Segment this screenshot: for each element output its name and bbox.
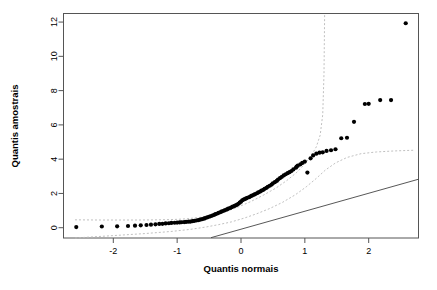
x-axis-tick-labels: -2-1012: [109, 246, 371, 256]
y-axis-title: Quantis amostrais: [9, 85, 20, 168]
confidence-band-line: [75, 150, 413, 238]
y-tick-label: 6: [50, 122, 60, 127]
y-axis-tick-labels: 024681012: [50, 17, 60, 230]
x-tick-label: 0: [238, 246, 243, 256]
y-tick-label: 8: [50, 88, 60, 93]
data-point: [305, 170, 309, 174]
data-point: [303, 159, 307, 163]
data-point: [363, 102, 367, 106]
data-point: [321, 150, 325, 154]
reference-line: [211, 179, 419, 237]
plot-canvas: 024681012 -2-1012 Quantis normais Quanti…: [0, 0, 437, 290]
y-tick-label: 4: [50, 157, 60, 162]
x-tick-label: 2: [366, 246, 371, 256]
data-point: [339, 136, 343, 140]
y-tick-label: 0: [50, 225, 60, 230]
x-tick-label: -2: [109, 246, 117, 256]
data-point: [149, 223, 153, 227]
x-tick-label: 1: [302, 246, 307, 256]
data-point: [74, 225, 78, 229]
confidence-bands: [75, 14, 413, 239]
data-points: [74, 21, 408, 229]
data-point: [389, 98, 393, 102]
data-point: [153, 222, 157, 226]
data-point: [133, 224, 137, 228]
data-point: [139, 223, 143, 227]
confidence-band-line: [75, 14, 325, 221]
x-tick-label: -1: [173, 246, 181, 256]
data-point: [100, 224, 104, 228]
qq-plot-figure: 024681012 -2-1012 Quantis normais Quanti…: [0, 0, 437, 290]
data-point: [324, 149, 328, 153]
data-point: [144, 223, 148, 227]
x-axis-title: Quantis normais: [204, 263, 279, 274]
y-tick-label: 10: [50, 51, 60, 61]
data-point: [345, 136, 349, 140]
x-axis-ticks: [113, 238, 368, 243]
data-point: [378, 98, 382, 102]
data-point: [333, 147, 337, 151]
y-tick-label: 12: [50, 17, 60, 27]
data-point: [329, 148, 333, 152]
y-tick-label: 2: [50, 191, 60, 196]
data-point: [115, 224, 119, 228]
data-point: [404, 21, 408, 25]
data-point: [367, 102, 371, 106]
data-point: [126, 224, 130, 228]
data-point: [352, 120, 356, 124]
